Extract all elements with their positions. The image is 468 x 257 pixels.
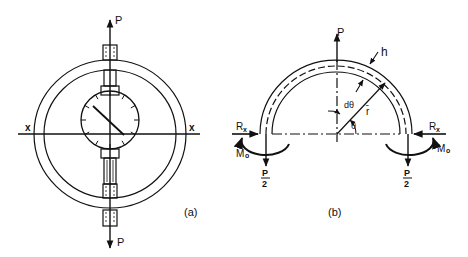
label-load-top-a: P — [115, 14, 122, 26]
dial-needle — [93, 106, 124, 135]
svg-text:x: x — [243, 126, 247, 133]
label-half-load-right: P 2 — [403, 168, 412, 189]
label-load-top-b: P — [337, 26, 344, 38]
figure-b-half-ring — [232, 34, 446, 166]
caption-a: (a) — [184, 206, 197, 218]
svg-text:2: 2 — [404, 179, 409, 189]
outer-arc — [260, 60, 412, 134]
mean-arc — [266, 66, 406, 134]
diagram-canvas: P P x x (a) P h dθ — [0, 0, 468, 257]
svg-text:o: o — [245, 152, 249, 159]
thickness-arrow-outer — [370, 52, 378, 64]
svg-text:2: 2 — [262, 179, 267, 189]
label-thickness-h: h — [381, 45, 388, 59]
label-reaction-right: R x — [429, 121, 440, 133]
label-mean-radius: r̄ — [365, 105, 370, 117]
label-load-bottom-a: P — [117, 236, 124, 248]
moment-arc-right — [386, 138, 434, 155]
label-axis-x-left: x — [25, 122, 31, 133]
label-axis-x-right: x — [189, 122, 195, 133]
svg-text:M: M — [437, 143, 445, 154]
caption-b: (b) — [328, 206, 341, 218]
svg-text:P: P — [262, 168, 268, 178]
svg-text:x: x — [436, 126, 440, 133]
thickness-arrow-inner — [356, 80, 363, 92]
label-half-load-left: P 2 — [261, 168, 270, 189]
label-dtheta: dθ — [344, 100, 354, 110]
svg-text:o: o — [446, 147, 450, 154]
svg-text:P: P — [404, 168, 410, 178]
svg-text:M: M — [236, 148, 244, 159]
label-moment-right: M o — [437, 143, 450, 154]
figure-a-proving-ring — [18, 20, 200, 248]
label-reaction-left: R x — [236, 121, 247, 133]
dtheta-arrow — [328, 111, 340, 114]
label-theta: θ — [351, 121, 356, 131]
